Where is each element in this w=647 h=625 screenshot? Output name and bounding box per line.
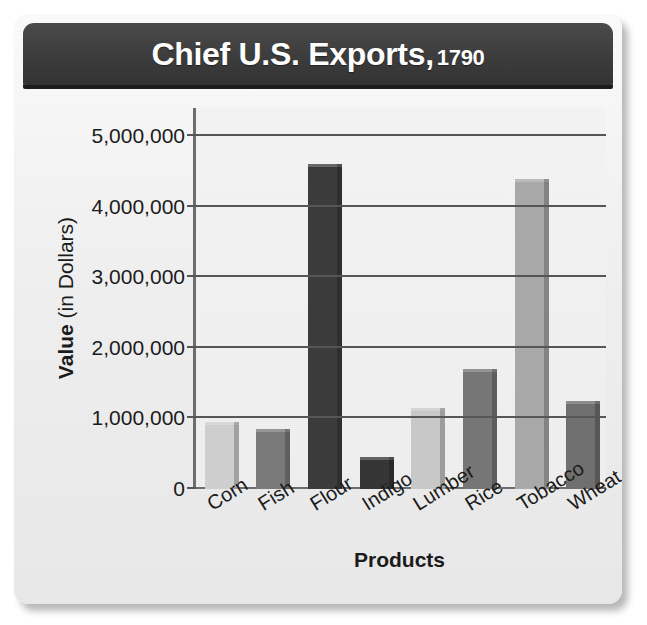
y-tick-stub xyxy=(187,275,196,277)
bar-face xyxy=(308,164,342,489)
bar-right-edge xyxy=(544,179,549,489)
bar-series xyxy=(196,108,606,489)
y-tick-label: 2,000,000 xyxy=(92,336,185,360)
chart-card: Chief U.S. Exports,1790 Value (in Dollar… xyxy=(14,14,622,604)
bar-right-edge xyxy=(337,164,342,489)
bar-flour[interactable] xyxy=(308,164,342,489)
gridline-5000000 xyxy=(196,134,606,136)
y-tick-label: 5,000,000 xyxy=(92,124,185,148)
bar-face xyxy=(515,179,549,489)
plot-area xyxy=(193,108,606,489)
y-tick-label: 3,000,000 xyxy=(92,265,185,289)
chart-title-main: Chief U.S. Exports, xyxy=(151,36,433,72)
y-tick-stub xyxy=(187,416,196,418)
gridline-3000000 xyxy=(196,275,606,277)
y-tick-label: 4,000,000 xyxy=(92,195,185,219)
chart-page: Chief U.S. Exports,1790 Value (in Dollar… xyxy=(0,0,647,625)
bar-tobacco[interactable] xyxy=(515,179,549,489)
chart-region: Value (in Dollars) 01,000,0002,000,0003,… xyxy=(23,96,613,594)
x-axis-title: Products xyxy=(193,548,606,572)
y-tick-label: 1,000,000 xyxy=(92,406,185,430)
y-tick-stub xyxy=(187,205,196,207)
y-tick-stub xyxy=(187,346,196,348)
bar-right-edge xyxy=(492,369,497,489)
gridline-2000000 xyxy=(196,346,606,348)
y-axis-tick-labels: 01,000,0002,000,0003,000,0004,000,0005,0… xyxy=(49,96,189,496)
chart-card-inner: Chief U.S. Exports,1790 Value (in Dollar… xyxy=(14,14,622,604)
plot-inner xyxy=(196,108,606,489)
y-tick-stub xyxy=(187,487,196,489)
gridline-4000000 xyxy=(196,205,606,207)
chart-title: Chief U.S. Exports,1790 xyxy=(151,36,484,73)
y-tick-stub xyxy=(187,134,196,136)
y-tick-label: 0 xyxy=(173,477,185,501)
chart-title-year: 1790 xyxy=(437,45,485,70)
gridline-1000000 xyxy=(196,416,606,418)
chart-title-banner: Chief U.S. Exports,1790 xyxy=(23,23,613,85)
